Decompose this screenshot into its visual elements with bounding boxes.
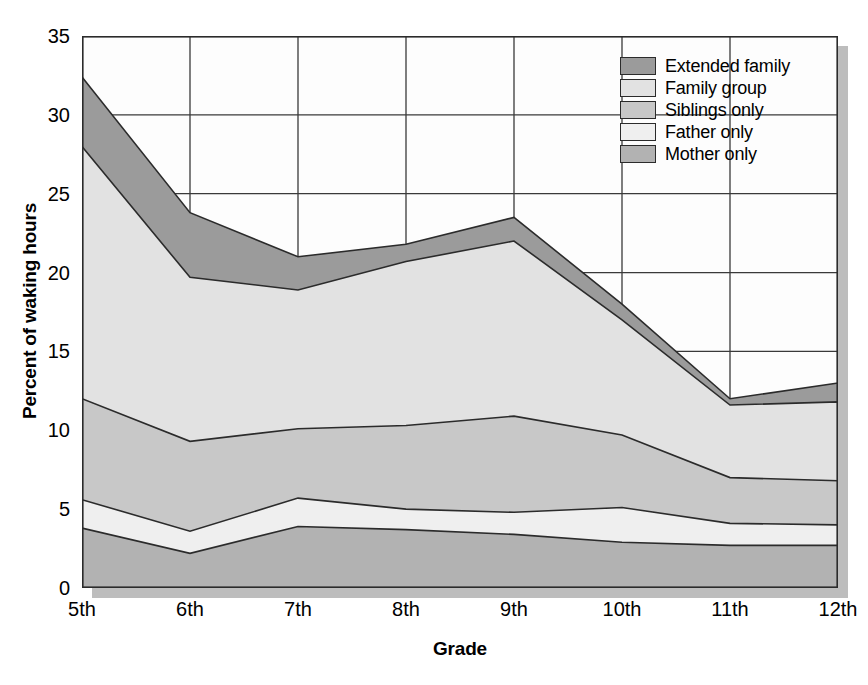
- legend-item: Family group: [620, 77, 850, 99]
- legend-swatch-icon: [620, 79, 656, 97]
- legend-item: Siblings only: [620, 99, 850, 121]
- legend-label: Father only: [665, 122, 753, 143]
- y-tick-label: 35: [26, 26, 70, 46]
- y-tick-label: 0: [26, 578, 70, 598]
- x-tick-label: 5th: [37, 598, 127, 621]
- x-tick-label: 12th: [793, 598, 868, 621]
- legend-item: Mother only: [620, 143, 850, 165]
- y-tick-label: 25: [26, 184, 70, 204]
- y-tick-label: 20: [26, 263, 70, 283]
- chart-legend: Extended familyFamily groupSiblings only…: [620, 55, 850, 165]
- x-tick-label: 10th: [577, 598, 667, 621]
- legend-swatch-icon: [620, 123, 656, 141]
- x-axis-title: Grade: [82, 638, 838, 660]
- x-tick-label: 9th: [469, 598, 559, 621]
- legend-label: Extended family: [665, 56, 790, 77]
- legend-label: Siblings only: [665, 100, 763, 121]
- x-tick-label: 11th: [685, 598, 775, 621]
- legend-item: Extended family: [620, 55, 850, 77]
- chart-figure: Percent of waking hours 05101520253035 5…: [0, 0, 868, 685]
- x-tick-label: 7th: [253, 598, 343, 621]
- x-tick-label: 6th: [145, 598, 235, 621]
- y-tick-label: 30: [26, 105, 70, 125]
- legend-label: Family group: [665, 78, 767, 99]
- legend-swatch-icon: [620, 57, 656, 75]
- y-tick-label: 5: [26, 499, 70, 519]
- legend-swatch-icon: [620, 101, 656, 119]
- x-tick-label: 8th: [361, 598, 451, 621]
- legend-label: Mother only: [665, 144, 757, 165]
- legend-swatch-icon: [620, 145, 656, 163]
- y-axis-tick-labels: 05101520253035: [12, 0, 70, 685]
- y-tick-label: 10: [26, 420, 70, 440]
- legend-item: Father only: [620, 121, 850, 143]
- y-tick-label: 15: [26, 341, 70, 361]
